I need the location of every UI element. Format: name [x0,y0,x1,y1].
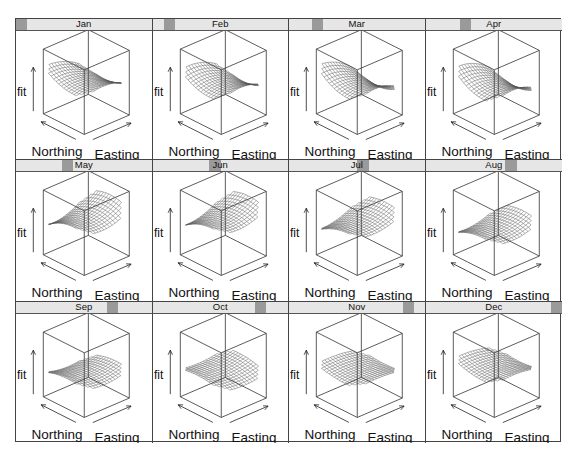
strip-nov: Nov [289,302,425,314]
strip-mar: Mar [289,19,425,31]
easting-arrow [502,264,540,280]
surface-mesh [48,355,121,388]
northing-label: Northing [304,144,355,159]
easting-arrow [93,123,131,139]
wireframe-plot: fitNorthingEasting [289,172,426,301]
wireframe-plot: fitNorthingEasting [426,31,563,160]
surface-mesh [185,62,258,99]
easting-label: Easting [504,147,549,160]
panel-jan: JanfitNorthingEasting [16,19,153,160]
strip-apr: Apr [426,19,563,31]
fit-label: fit [17,85,27,99]
northing-label: Northing [168,144,219,159]
northing-label: Northing [441,286,492,301]
northing-arrow [178,263,213,281]
northing-arrow [178,404,213,422]
strip-jul: Jul [289,160,425,172]
lattice-frame: JanfitNorthingEastingFebfitNorthingEasti… [15,18,561,442]
panel-may: MayfitNorthingEasting [16,160,153,301]
northing-arrow [314,263,349,281]
strip-label: Sep [16,302,152,313]
panel-feb: FebfitNorthingEasting [153,19,290,160]
surface-mesh [321,197,394,237]
fit-label: fit [154,85,164,99]
strip-sep: Sep [16,302,152,314]
fit-label: fit [154,226,164,240]
easting-arrow [366,264,404,280]
strip-jan: Jan [16,19,152,31]
fit-label: fit [427,226,437,240]
strip-feb: Feb [153,19,289,31]
fit-label: fit [290,367,300,381]
easting-label: Easting [367,147,412,160]
fit-label: fit [154,367,164,381]
northing-arrow [314,404,349,422]
easting-label: Easting [367,430,412,443]
easting-arrow [229,123,267,139]
fit-label: fit [427,85,437,99]
easting-arrow [93,406,131,422]
strip-label: Jun [153,160,289,171]
northing-arrow [41,263,76,281]
easting-arrow [93,264,131,280]
easting-arrow [502,406,540,422]
strip-label: May [16,160,152,171]
strip-jun: Jun [153,160,289,172]
easting-label: Easting [504,289,549,302]
surface-mesh [48,61,121,95]
wireframe-plot: fitNorthingEasting [16,172,153,301]
strip-label: Jul [289,160,425,171]
strip-oct: Oct [153,302,289,314]
panel-jun: JunfitNorthingEasting [153,160,290,301]
wireframe-plot: fitNorthingEasting [289,314,426,443]
northing-label: Northing [304,427,355,442]
surface-mesh [321,62,394,99]
easting-label: Easting [367,289,412,302]
northing-arrow [41,122,76,140]
northing-arrow [178,122,213,140]
panel-apr: AprfitNorthingEasting [426,19,563,160]
surface-mesh [48,191,121,234]
surface-mesh [321,350,394,385]
easting-arrow [366,406,404,422]
fit-label: fit [427,367,437,381]
fit-label: fit [17,367,27,381]
wireframe-plot: fitNorthingEasting [153,31,290,160]
panel-jul: JulfitNorthingEasting [289,160,426,301]
northing-arrow [451,263,486,281]
panel-oct: OctfitNorthingEasting [153,302,290,443]
easting-label: Easting [94,289,139,302]
easting-arrow [229,264,267,280]
strip-label: Oct [153,302,289,313]
panel-nov: NovfitNorthingEasting [289,302,426,443]
northing-label: Northing [441,427,492,442]
easting-label: Easting [231,147,276,160]
fit-label: fit [17,226,27,240]
wireframe-plot: fitNorthingEasting [153,314,290,443]
easting-label: Easting [94,147,139,160]
panel-mar: MarfitNorthingEasting [289,19,426,160]
fit-label: fit [290,85,300,99]
wireframe-plot: fitNorthingEasting [16,314,153,443]
easting-label: Easting [504,430,549,443]
northing-arrow [41,404,76,422]
strip-label: Nov [289,302,425,313]
strip-aug: Aug [426,160,563,172]
easting-arrow [366,123,404,139]
surface-mesh [185,192,258,233]
panel-dec: DecfitNorthingEasting [426,302,563,443]
northing-arrow [451,404,486,422]
northing-label: Northing [31,144,82,159]
surface-mesh [458,206,531,244]
strip-label: Apr [426,19,563,30]
northing-label: Northing [168,286,219,301]
wireframe-plot: fitNorthingEasting [426,172,563,301]
strip-label: Feb [153,19,289,30]
northing-label: Northing [168,427,219,442]
panel-aug: AugfitNorthingEasting [426,160,563,301]
wireframe-plot: fitNorthingEasting [153,172,290,301]
panel-sep: SepfitNorthingEasting [16,302,153,443]
surface-mesh [458,348,531,383]
easting-label: Easting [94,430,139,443]
northing-arrow [451,122,486,140]
